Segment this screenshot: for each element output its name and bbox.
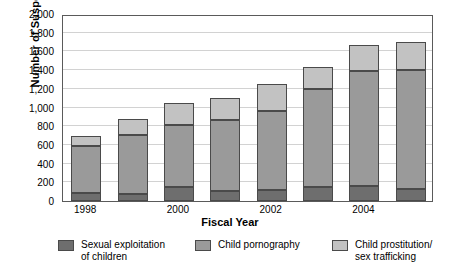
- y-axis-tick-label: 200: [0, 178, 54, 188]
- bar-2001[interactable]: [210, 98, 240, 201]
- bar-segment[interactable]: [396, 70, 426, 189]
- bar-segment[interactable]: [118, 135, 148, 194]
- x-axis-tick-label: 2004: [333, 204, 393, 215]
- legend-label: Child pornography: [218, 239, 300, 251]
- bar-segment[interactable]: [210, 98, 240, 120]
- bar-segment[interactable]: [349, 71, 379, 186]
- bar-segment[interactable]: [303, 89, 333, 187]
- y-axis-tick-label: 1,000: [0, 104, 54, 114]
- bar-2005[interactable]: [396, 42, 426, 201]
- bar-segment[interactable]: [257, 190, 287, 201]
- y-axis-tick-label: 1,400: [0, 66, 54, 76]
- bar-segment[interactable]: [349, 45, 379, 71]
- chart-container: Number of Suspects 02004006008001,0001,2…: [0, 0, 460, 271]
- y-axis-tick-label: 600: [0, 141, 54, 151]
- bar-segment[interactable]: [257, 111, 287, 190]
- bar-segment[interactable]: [210, 120, 240, 191]
- bar-2002[interactable]: [257, 84, 287, 201]
- y-axis-tick-label: 2,000: [0, 10, 54, 20]
- bar-segment[interactable]: [257, 84, 287, 112]
- x-axis-tick-label: 1998: [55, 204, 115, 215]
- bar-segment[interactable]: [396, 42, 426, 70]
- bar-2000[interactable]: [164, 103, 194, 201]
- x-axis-tick-label: 2002: [241, 204, 301, 215]
- bar-segment[interactable]: [349, 186, 379, 201]
- bar-segment[interactable]: [396, 189, 426, 201]
- bar-2003[interactable]: [303, 67, 333, 201]
- y-axis-tick-label: 1,600: [0, 47, 54, 57]
- y-axis-tick-label: 1,800: [0, 29, 54, 39]
- bar-1999[interactable]: [118, 119, 148, 201]
- bar-segment[interactable]: [118, 194, 148, 201]
- bar-1998[interactable]: [71, 136, 101, 201]
- bar-segment[interactable]: [303, 67, 333, 89]
- bar-segment[interactable]: [71, 193, 101, 201]
- bar-2004[interactable]: [349, 45, 379, 201]
- legend-swatch-icon: [58, 240, 74, 251]
- y-axis-tick-label: 800: [0, 122, 54, 132]
- x-axis-title: Fiscal Year: [0, 216, 460, 228]
- legend-label: Child prostitution/ sex trafficking: [355, 239, 432, 262]
- bar-segment[interactable]: [164, 187, 194, 201]
- legend-item[interactable]: Sexual exploitation of children: [58, 239, 165, 262]
- x-axis-tick-label: 2000: [148, 204, 208, 215]
- y-axis-tick-labels: 02004006008001,0001,2001,4001,6001,8002,…: [0, 0, 60, 271]
- legend-swatch-icon: [195, 240, 211, 251]
- plot-area: [62, 15, 433, 202]
- legend-label: Sexual exploitation of children: [81, 239, 165, 262]
- bar-segment[interactable]: [210, 191, 240, 201]
- bar-segment[interactable]: [164, 103, 194, 125]
- chart-legend: Sexual exploitation of childrenChild por…: [0, 239, 460, 271]
- legend-item[interactable]: Child prostitution/ sex trafficking: [332, 239, 432, 262]
- bar-segment[interactable]: [118, 119, 148, 135]
- legend-item[interactable]: Child pornography: [195, 239, 300, 251]
- bar-segment[interactable]: [303, 187, 333, 201]
- bars-group: [63, 16, 432, 201]
- legend-swatch-icon: [332, 240, 348, 251]
- y-axis-tick-label: 1,200: [0, 85, 54, 95]
- bar-segment[interactable]: [164, 125, 194, 188]
- y-axis-tick-label: 400: [0, 160, 54, 170]
- bar-segment[interactable]: [71, 136, 101, 146]
- bar-segment[interactable]: [71, 146, 101, 193]
